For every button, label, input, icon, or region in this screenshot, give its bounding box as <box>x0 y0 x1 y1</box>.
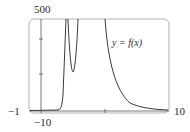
x-max-label: 10 <box>174 106 185 117</box>
viewing-frame <box>29 19 169 113</box>
chart-canvas <box>0 0 190 132</box>
x-min-label: −10 <box>34 117 51 128</box>
curve-right-branch <box>105 19 168 110</box>
curve-middle-branch <box>68 19 78 72</box>
curve-label: y = f(x) <box>112 38 142 48</box>
curve-left-branch <box>30 19 66 111</box>
y-max-label: 500 <box>34 4 51 15</box>
y-min-label: −1 <box>8 106 20 117</box>
